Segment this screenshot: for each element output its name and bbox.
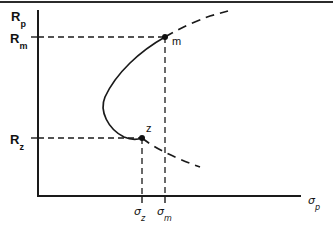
y-tick-label-Rm-subscript: m (19, 41, 27, 51)
x-axis-label: σp (308, 191, 320, 210)
y-tick-label-Rz: Rz (10, 131, 24, 150)
curve-lower-dashed-branch (142, 138, 200, 167)
x-tick-label-sigma-z-base: σ (134, 205, 141, 218)
figure-container: Rp Rm Rz σz σm σp m z (0, 0, 333, 228)
y-tick-label-Rz-subscript: z (19, 142, 24, 152)
x-tick-label-sigma-m-subscript: m (164, 214, 172, 223)
y-axis-label-base: R (11, 9, 20, 24)
y-axis-label: Rp (11, 8, 26, 27)
x-tick-label-sigma-m-base: σ (157, 205, 164, 218)
x-tick-label-sigma-m: σm (157, 202, 172, 221)
plot-canvas (0, 0, 333, 228)
x-tick-label-sigma-z: σz (134, 202, 145, 221)
x-axis-label-subscript: p (315, 203, 320, 212)
x-tick-label-sigma-z-subscript: z (141, 214, 145, 223)
data-point-label-m: m (172, 36, 181, 47)
data-point-label-z: z (146, 123, 152, 134)
x-axis-label-base: σ (308, 194, 315, 207)
y-tick-label-Rm-base: R (10, 31, 19, 46)
data-point-marker-m (162, 34, 168, 40)
y-tick-label-Rz-base: R (10, 132, 19, 147)
data-point-marker-z (139, 135, 145, 141)
curve-upper-dashed-branch (165, 11, 228, 37)
curve-solid-segment (103, 37, 165, 139)
y-axis-label-subscript: p (20, 19, 26, 29)
y-tick-label-Rm: Rm (10, 30, 27, 49)
